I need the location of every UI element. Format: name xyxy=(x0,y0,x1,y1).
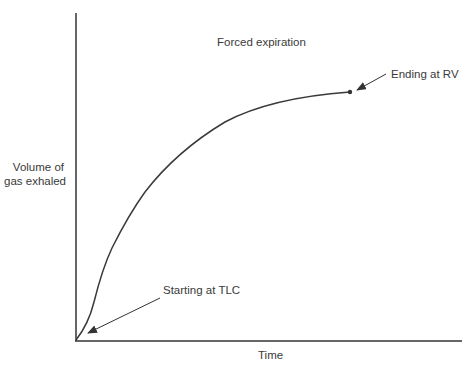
end-annotation-label: Ending at RV xyxy=(391,67,459,81)
y-axis-label-line2: gas exhaled xyxy=(4,174,64,188)
chart-canvas xyxy=(0,0,475,368)
end-annotation-arrow xyxy=(357,74,386,90)
y-axis-label-line1: Volume of xyxy=(10,160,64,174)
x-axis-label: Time xyxy=(258,348,283,362)
end-point-marker xyxy=(348,90,352,94)
start-annotation-arrow xyxy=(88,298,160,333)
start-annotation-label: Starting at TLC xyxy=(163,283,240,297)
expiration-curve xyxy=(76,92,350,340)
chart-title: Forced expiration xyxy=(217,35,306,49)
